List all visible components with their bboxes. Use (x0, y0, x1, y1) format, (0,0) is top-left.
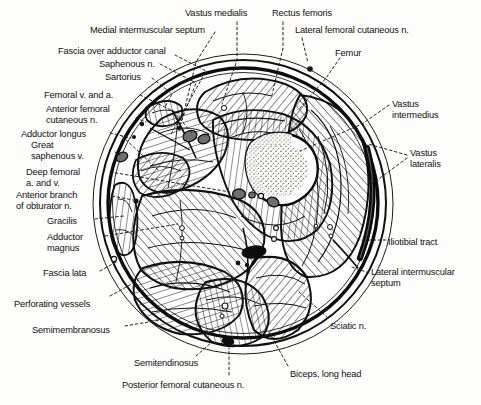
label-deep-femoral-a-and-v: Deep femoral a. and v. (26, 167, 80, 188)
sartorius-muscle (146, 101, 183, 126)
label-great-saphenous-v: Great saphenous v. (31, 140, 84, 161)
biceps-long-head-muscle (245, 257, 311, 339)
deep-femoral-vein (249, 192, 255, 198)
label-vastus-lateralis: Vastus lateralis (410, 148, 441, 169)
label-gracilis: Gracilis (47, 216, 77, 227)
label-anterior-femoral-cutaneous-n: Anterior femoral cutaneous n. (46, 104, 110, 125)
label-semimembranosus: Semimembranosus (32, 325, 110, 336)
anterior-femoral-cutaneous-nerve (140, 122, 144, 126)
label-femoral-v-and-a: Femoral v. and a. (44, 90, 113, 101)
label-perforating-vessels: Perforating vessels (14, 299, 90, 310)
label-posterior-femoral-cutaneous-n: Posterior femoral cutaneous n. (122, 380, 244, 391)
label-lateral-intermuscular-septum: Lateral intermuscular septum (371, 267, 455, 288)
deep-femoral-artery (233, 189, 246, 199)
label-iliotibial-tract: Iliotibial tract (388, 237, 437, 248)
label-lateral-femoral-cutaneous-n: Lateral femoral cutaneous n. (295, 25, 409, 36)
label-saphenous-n: Saphenous n. (99, 59, 155, 70)
perforating-vessel (111, 256, 116, 261)
label-femur: Femur (335, 48, 361, 59)
label-fascia-over-adductor-canal: Fascia over adductor canal (58, 46, 166, 57)
lateral-femoral-cutaneous-nerve (307, 66, 313, 72)
leader-semitendinosus (196, 342, 212, 356)
label-fascia-lata: Fascia lata (43, 268, 86, 279)
label-medial-intermuscular-septum: Medial intermuscular septum (90, 25, 205, 36)
label-vastus-intermedius: Vastus intermedius (392, 99, 438, 120)
label-anterior-branch-of-obturator-n: Anterior branch of obturator n. (16, 190, 77, 211)
leader-lateral-femoral-cutaneous-n (302, 38, 308, 63)
label-semitendinosus: Semitendinosus (134, 358, 198, 369)
label-adductor-magnus: Adductor magnus (47, 232, 83, 253)
label-adductor-longus: Adductor longus (21, 129, 86, 140)
figure-canvas: Vastus medialisRectus femorisMedial inte… (0, 0, 481, 405)
label-sciatic-n: Sciatic n. (330, 321, 366, 332)
anterior-branch-obturator-nerve (133, 198, 138, 203)
label-biceps-long-head: Biceps, long head (290, 369, 361, 380)
label-sartorius: Sartorius (105, 72, 141, 83)
label-vastus-medialis: Vastus medialis (185, 8, 247, 19)
saphenous-nerve (177, 126, 182, 131)
label-rectus-femoris: Rectus femoris (272, 8, 332, 19)
